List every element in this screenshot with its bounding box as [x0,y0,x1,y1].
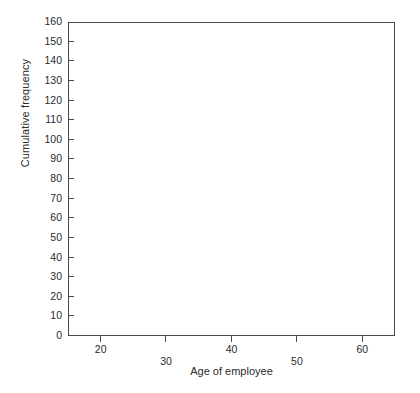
y-tick-mark [68,257,74,258]
y-tick-mark [68,296,74,297]
y-tick-mark [68,178,74,179]
cumulative-frequency-chart: 0102030405060708090100110120130140150160… [0,0,420,393]
y-tick-label: 80 [32,171,62,186]
y-tick-label: 100 [32,132,62,147]
y-tick-mark [68,198,74,199]
y-axis-title: Cumulative frequency [19,0,31,263]
y-tick-mark [68,41,74,42]
y-tick-label: 140 [32,53,62,68]
y-tick-mark [68,80,74,81]
y-tick-mark [68,158,74,159]
x-tick-mark [100,336,101,342]
y-tick-label: 110 [32,112,62,127]
x-tick-mark [362,336,363,342]
y-tick-label: 160 [32,14,62,29]
x-tick-label: 60 [342,343,382,355]
y-tick-label: 0 [32,328,62,343]
x-tick-label: 20 [81,343,121,355]
y-tick-mark [68,217,74,218]
y-tick-mark [68,139,74,140]
x-axis-title: Age of employee [68,365,395,377]
plot-frame [68,22,395,336]
x-tick-label: 40 [212,343,252,355]
y-tick-label: 70 [32,191,62,206]
y-tick-label: 150 [32,34,62,49]
y-tick-label: 20 [32,289,62,304]
y-tick-label: 40 [32,250,62,265]
y-tick-mark [68,60,74,61]
y-tick-label: 130 [32,73,62,88]
y-tick-label: 120 [32,93,62,108]
y-tick-mark [68,237,74,238]
y-tick-mark [68,119,74,120]
y-tick-label: 60 [32,210,62,225]
y-tick-label: 90 [32,151,62,166]
x-tick-mark [296,336,297,342]
y-tick-mark [68,315,74,316]
x-tick-mark [231,336,232,342]
y-tick-label: 30 [32,269,62,284]
y-tick-mark [68,100,74,101]
x-tick-mark [165,336,166,342]
y-tick-mark [68,276,74,277]
y-tick-label: 50 [32,230,62,245]
y-tick-label: 10 [32,308,62,323]
